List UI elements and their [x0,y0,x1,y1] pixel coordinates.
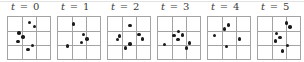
grid-line-vertical [172,17,173,59]
particle-dot [17,31,20,34]
grid-line-horizontal [58,45,100,46]
panel-label: t = 2 [111,1,140,13]
grid-line-horizontal [208,31,250,32]
particle-dot [238,37,241,40]
particle-dot [137,33,140,36]
time-panel: t = 2 [107,0,153,62]
particle-dot [181,33,184,36]
particle-dot [124,46,127,49]
time-panel: t = 5 [257,0,303,62]
particle-dot [66,44,69,47]
grid-line-horizontal [258,45,300,46]
particle-dot [227,23,230,26]
grid-line-horizontal [108,31,150,32]
particle-dot [31,44,34,47]
particle-dot [172,34,175,37]
state-grid [107,16,151,60]
panel-label: t = 0 [11,1,40,13]
time-evolution-figure: t = 0 t = 1 t = 2 [0,0,304,62]
label-value: 4 [233,1,240,12]
particle-dot [285,21,288,24]
particle-dot [85,37,88,40]
grid-line-vertical [36,17,37,59]
particle-dot [213,34,216,37]
particle-dot [278,36,281,39]
particle-dot [176,38,179,41]
label-equals: = [265,1,283,12]
grid-line-vertical [222,17,223,59]
state-grid [257,16,301,60]
grid-line-horizontal [8,45,50,46]
particle-dot [116,38,119,41]
grid-line-vertical [272,17,273,59]
particle-dot [26,48,29,51]
time-panel: t = 4 [207,0,253,62]
panel-label: t = 1 [61,1,90,13]
particle-dot [118,34,121,37]
particle-dot [275,32,278,35]
label-value: 0 [33,1,40,12]
panel-label: t = 4 [211,1,240,13]
label-value: 5 [283,1,290,12]
particle-dot [177,30,180,33]
label-equals: = [115,1,133,12]
panel-label: t = 3 [161,1,190,13]
particle-dot [16,40,19,43]
particle-dot [274,39,277,42]
particle-dot [128,24,131,27]
label-value: 3 [183,1,190,12]
particle-dot [128,42,131,45]
label-value: 1 [83,1,90,12]
grid-line-vertical [136,17,137,59]
label-equals: = [165,1,183,12]
label-value: 2 [133,1,140,12]
particle-dot [185,46,188,49]
grid-line-horizontal [58,31,100,32]
state-grid [7,16,51,60]
label-equals: = [65,1,83,12]
particle-dot [188,41,191,44]
grid-line-horizontal [208,45,250,46]
time-panel: t = 1 [57,0,103,62]
grid-line-vertical [186,17,187,59]
state-grid [207,16,251,60]
grid-line-horizontal [258,31,300,32]
label-equals: = [15,1,33,12]
panel-label: t = 5 [261,1,290,13]
time-panel: t = 3 [157,0,203,62]
state-grid [157,16,201,60]
grid-line-vertical [236,17,237,59]
particle-dot [286,44,289,47]
particle-dot [80,41,83,44]
particle-dot [28,21,31,24]
particle-dot [33,25,36,28]
particle-dot [82,33,85,36]
particle-dot [141,37,144,40]
label-equals: = [215,1,233,12]
particle-dot [21,35,24,38]
particle-dot [225,45,228,48]
particle-dot [288,25,291,28]
grid-line-vertical [122,17,123,59]
state-grid [57,16,101,60]
particle-dot [281,49,284,52]
time-panel: t = 0 [7,0,53,62]
particle-dot [72,22,75,25]
grid-line-horizontal [8,31,50,32]
